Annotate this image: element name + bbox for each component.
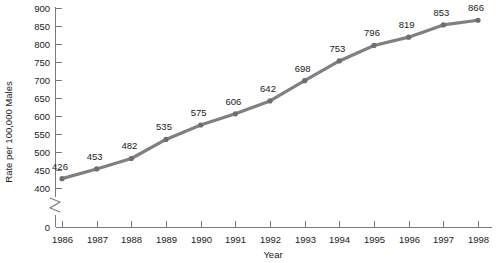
y-tick-label: 600 xyxy=(34,111,50,122)
data-point-marker xyxy=(371,43,376,48)
data-point-marker xyxy=(233,111,238,116)
y-tick-label: 650 xyxy=(34,93,50,104)
y-tick-label: 550 xyxy=(34,129,50,140)
data-point-label: 819 xyxy=(399,19,415,30)
y-axis-tick-labels: 4004505005506006507007508008509000 xyxy=(34,3,50,233)
x-tick-label: 1994 xyxy=(329,234,350,245)
x-tick-label: 1991 xyxy=(225,234,246,245)
y-tick-label: 450 xyxy=(34,165,50,176)
y-tick-label: 750 xyxy=(34,57,50,68)
y-tick-label: 900 xyxy=(34,3,50,14)
data-point-marker xyxy=(337,58,342,63)
data-point-label: 426 xyxy=(52,161,68,172)
x-axis-ticks xyxy=(63,221,479,228)
x-tick-label: 1997 xyxy=(433,234,454,245)
data-point-label: 753 xyxy=(329,43,345,54)
line-chart: 4004505005506006507007508008509000 19861… xyxy=(0,0,501,263)
data-point-marker xyxy=(475,18,480,23)
data-point-marker xyxy=(267,98,272,103)
y-tick-label: 800 xyxy=(34,39,50,50)
x-axis-title: Year xyxy=(263,249,282,260)
y-axis-title: Rate per 100,000 Males xyxy=(3,81,14,183)
y-tick-label: 850 xyxy=(34,21,50,32)
series-markers xyxy=(59,18,480,182)
y-tick-label: 400 xyxy=(34,183,50,194)
x-tick-label: 1987 xyxy=(87,234,108,245)
data-point-marker xyxy=(163,137,168,142)
data-point-labels: 426453482535575606642698753796819853866 xyxy=(52,2,484,171)
data-point-label: 866 xyxy=(468,2,484,13)
data-point-marker xyxy=(441,22,446,27)
data-point-marker xyxy=(198,122,203,127)
axis-break-icon xyxy=(50,198,60,212)
chart-canvas: 4004505005506006507007508008509000 19861… xyxy=(0,0,501,263)
data-point-label: 698 xyxy=(295,63,311,74)
y-tick-label-zero: 0 xyxy=(45,222,50,233)
data-point-label: 482 xyxy=(121,140,137,151)
data-point-label: 453 xyxy=(87,151,103,162)
x-tick-label: 1993 xyxy=(295,234,316,245)
x-tick-label: 1990 xyxy=(191,234,212,245)
x-tick-label: 1992 xyxy=(260,234,281,245)
data-point-marker xyxy=(94,166,99,171)
data-point-label: 853 xyxy=(433,7,449,18)
data-point-marker xyxy=(406,35,411,40)
x-tick-label: 1988 xyxy=(121,234,142,245)
data-point-label: 606 xyxy=(225,96,241,107)
data-point-label: 796 xyxy=(364,27,380,38)
data-point-label: 642 xyxy=(260,83,276,94)
y-tick-label: 700 xyxy=(34,75,50,86)
x-tick-label: 1989 xyxy=(156,234,177,245)
data-point-label: 575 xyxy=(191,107,207,118)
data-point-label: 535 xyxy=(156,121,172,132)
x-axis-tick-labels: 1986198719881989199019911992199319941995… xyxy=(52,234,489,245)
data-series xyxy=(59,18,480,182)
data-point-marker xyxy=(59,176,64,181)
x-tick-label: 1986 xyxy=(52,234,73,245)
y-axis-ticks xyxy=(56,9,63,228)
x-tick-label: 1995 xyxy=(364,234,385,245)
y-tick-label: 500 xyxy=(34,147,50,158)
x-tick-label: 1998 xyxy=(468,234,489,245)
x-tick-label: 1996 xyxy=(399,234,420,245)
data-point-marker xyxy=(302,78,307,83)
data-point-marker xyxy=(129,156,134,161)
